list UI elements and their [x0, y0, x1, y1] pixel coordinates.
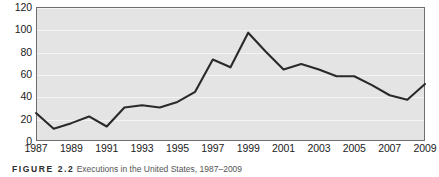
caption-label: FIGURE 2.2 — [12, 164, 74, 174]
y-tick-label: 60 — [2, 69, 32, 79]
y-tick-label: 120 — [2, 2, 32, 12]
x-tick-label: 2005 — [343, 143, 366, 154]
x-tick-label: 1997 — [201, 143, 224, 154]
y-axis: 120100806040200 — [0, 0, 32, 157]
x-tick-label: 2003 — [307, 143, 330, 154]
x-tick-label: 1987 — [25, 143, 48, 154]
series-line — [36, 33, 425, 129]
x-tick-label: 1999 — [237, 143, 260, 154]
y-tick-label: 100 — [2, 24, 32, 34]
x-tick-label: 1993 — [131, 143, 154, 154]
line-chart: 120100806040200 198719891991199319951997… — [0, 0, 439, 157]
figure-caption: FIGURE 2.2 Executions in the United Stat… — [12, 163, 432, 176]
y-tick-label: 80 — [2, 47, 32, 57]
x-tick-label: 2009 — [414, 143, 437, 154]
x-tick-label: 1989 — [60, 143, 83, 154]
caption-text: Executions in the United States, 1987–20… — [77, 164, 242, 174]
x-tick-label: 2007 — [378, 143, 401, 154]
y-tick-label: 20 — [2, 114, 32, 124]
figure-container: 120100806040200 198719891991199319951997… — [0, 0, 439, 177]
x-tick-label: 1995 — [166, 143, 189, 154]
y-tick-label: 40 — [2, 91, 32, 101]
series-executions — [36, 7, 425, 141]
x-axis: 1987198919911993199519971999200120032005… — [36, 143, 425, 157]
x-tick-label: 2001 — [272, 143, 295, 154]
x-tick-label: 1991 — [95, 143, 118, 154]
